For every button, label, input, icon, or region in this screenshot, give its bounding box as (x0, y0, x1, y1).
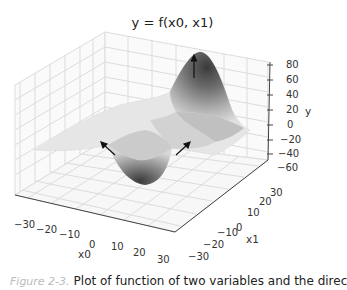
z-tick: 20 (286, 104, 299, 115)
z-axis-label: y (305, 105, 311, 117)
x1-tick: 0 (236, 222, 242, 233)
x0-tick: 10 (111, 241, 124, 252)
surface-plot-figure: y = f(x0, x1) 80 60 40 20 0 −20 −40 −60 … (0, 0, 325, 270)
chart-title: y = f(x0, x1) (10, 15, 335, 30)
x1-tick: −10 (217, 227, 238, 238)
z-tick: −60 (277, 162, 298, 173)
figure-number: Figure 2-3. (10, 275, 70, 288)
x1-tick: 10 (247, 207, 260, 218)
caption-text: Plot of function of two variables and th… (74, 274, 347, 288)
x1-axis-label: x1 (246, 233, 259, 245)
z-tick: 80 (286, 59, 299, 70)
x0-tick: 20 (133, 247, 146, 258)
x0-tick: −10 (59, 229, 80, 240)
x0-tick: 30 (157, 254, 170, 265)
z-tick: 60 (286, 74, 299, 85)
z-tick: −40 (278, 148, 299, 159)
z-tick: −20 (280, 134, 301, 145)
z-tick: 0 (287, 119, 293, 130)
x1-tick: 30 (270, 187, 283, 198)
figure-caption: Figure 2-3.Plot of function of two varia… (10, 274, 347, 288)
z-tick: 40 (286, 89, 299, 100)
x0-tick: −20 (36, 224, 57, 235)
x0-tick: −30 (14, 219, 35, 230)
x1-tick: −30 (188, 251, 209, 262)
x0-axis-label: x0 (78, 248, 91, 260)
x1-tick: −20 (203, 239, 224, 250)
